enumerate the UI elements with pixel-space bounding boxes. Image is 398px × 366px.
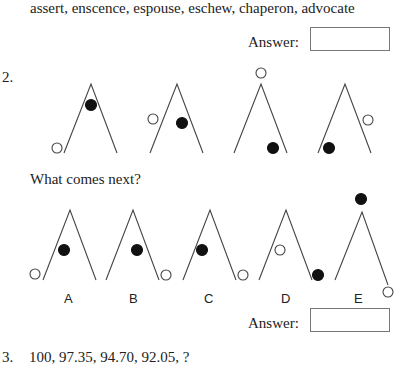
option-label-b[interactable]: B [129, 291, 138, 306]
option-figure-e[interactable] [335, 194, 393, 298]
option-label-d[interactable]: D [281, 291, 290, 306]
q2-answer-input[interactable] [310, 308, 390, 332]
sequence-figure-3 [234, 68, 287, 154]
option-label-c[interactable]: C [204, 291, 213, 306]
q2-answer-label: Answer: [248, 314, 299, 332]
option-figure-b[interactable] [106, 210, 171, 280]
sequence-figure-4 [318, 84, 373, 154]
sequence-figure-2 [148, 84, 203, 153]
option-label-a[interactable]: A [64, 291, 73, 306]
option-figure-c[interactable] [183, 210, 248, 280]
sequence-figure-1 [52, 84, 117, 153]
option-figure-d[interactable] [259, 210, 324, 281]
q3-sequence: 100, 97.35, 94.70, 92.05, ? [29, 348, 189, 366]
q3-number: 3. [2, 348, 13, 366]
option-label-e[interactable]: E [354, 291, 363, 306]
option-figure-a[interactable] [30, 210, 96, 280]
